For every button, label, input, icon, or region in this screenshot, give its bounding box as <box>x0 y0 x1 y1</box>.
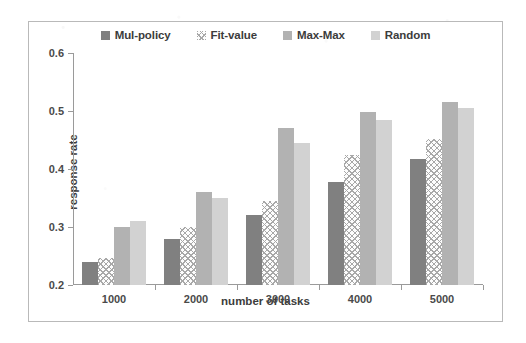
y-axis-tick-label: 0.6 <box>49 47 64 59</box>
bar[interactable] <box>360 112 376 285</box>
bar[interactable] <box>82 262 98 285</box>
y-axis-tick <box>68 285 73 286</box>
x-axis-tick <box>155 285 156 290</box>
x-axis-tick <box>401 285 402 290</box>
x-axis-tick-label: 2000 <box>184 293 208 305</box>
legend-label: Fit-value <box>211 29 257 41</box>
legend-swatch-icon <box>197 31 206 40</box>
x-axis-tick-label: 1000 <box>102 293 126 305</box>
x-axis-tick-label: 5000 <box>430 293 454 305</box>
x-axis-tick-label: 3000 <box>266 293 290 305</box>
legend-label: Random <box>385 29 430 41</box>
bar[interactable] <box>164 239 180 285</box>
bar[interactable] <box>344 155 360 286</box>
x-axis-tick <box>483 285 484 290</box>
bar[interactable] <box>130 221 146 285</box>
legend-label: Mul-policy <box>115 29 171 41</box>
legend-item-max-max[interactable]: Max-Max <box>283 29 345 41</box>
legend-swatch-icon <box>283 31 292 40</box>
bar[interactable] <box>114 227 130 285</box>
bar[interactable] <box>98 258 114 285</box>
bar[interactable] <box>442 102 458 285</box>
y-axis-tick-label: 0.3 <box>49 221 64 233</box>
y-axis-tick-label: 0.2 <box>49 279 64 291</box>
chart-legend: Mul-policy Fit-value Max-Max Random <box>29 29 502 41</box>
bar[interactable] <box>262 201 278 285</box>
bar[interactable] <box>180 227 196 285</box>
bar[interactable] <box>212 198 228 285</box>
bar[interactable] <box>246 215 262 285</box>
legend-swatch-icon <box>371 31 380 40</box>
legend-item-random[interactable]: Random <box>371 29 430 41</box>
bar-group <box>155 53 237 285</box>
bar-group <box>73 53 155 285</box>
legend-item-mul-policy[interactable]: Mul-policy <box>101 29 171 41</box>
bar[interactable] <box>458 108 474 285</box>
y-axis-tick-label: 0.4 <box>49 163 64 175</box>
bar[interactable] <box>426 139 442 285</box>
bar[interactable] <box>376 120 392 285</box>
bar[interactable] <box>196 192 212 285</box>
bar[interactable] <box>410 159 426 285</box>
x-axis-tick <box>237 285 238 290</box>
bar[interactable] <box>328 182 344 285</box>
x-axis-tick-label: 4000 <box>348 293 372 305</box>
chart-frame: Mul-policy Fit-value Max-Max Random resp… <box>28 21 503 322</box>
plot-area: 0.20.30.40.50.6 10002000300040005000 <box>73 53 483 285</box>
bar-group <box>237 53 319 285</box>
legend-item-fit-value[interactable]: Fit-value <box>197 29 257 41</box>
legend-swatch-icon <box>101 31 110 40</box>
y-axis-tick-label: 0.5 <box>49 105 64 117</box>
legend-label: Max-Max <box>297 29 345 41</box>
bar-group <box>319 53 401 285</box>
bar[interactable] <box>278 128 294 285</box>
x-axis-tick <box>319 285 320 290</box>
bar[interactable] <box>294 143 310 285</box>
bar-group <box>401 53 483 285</box>
